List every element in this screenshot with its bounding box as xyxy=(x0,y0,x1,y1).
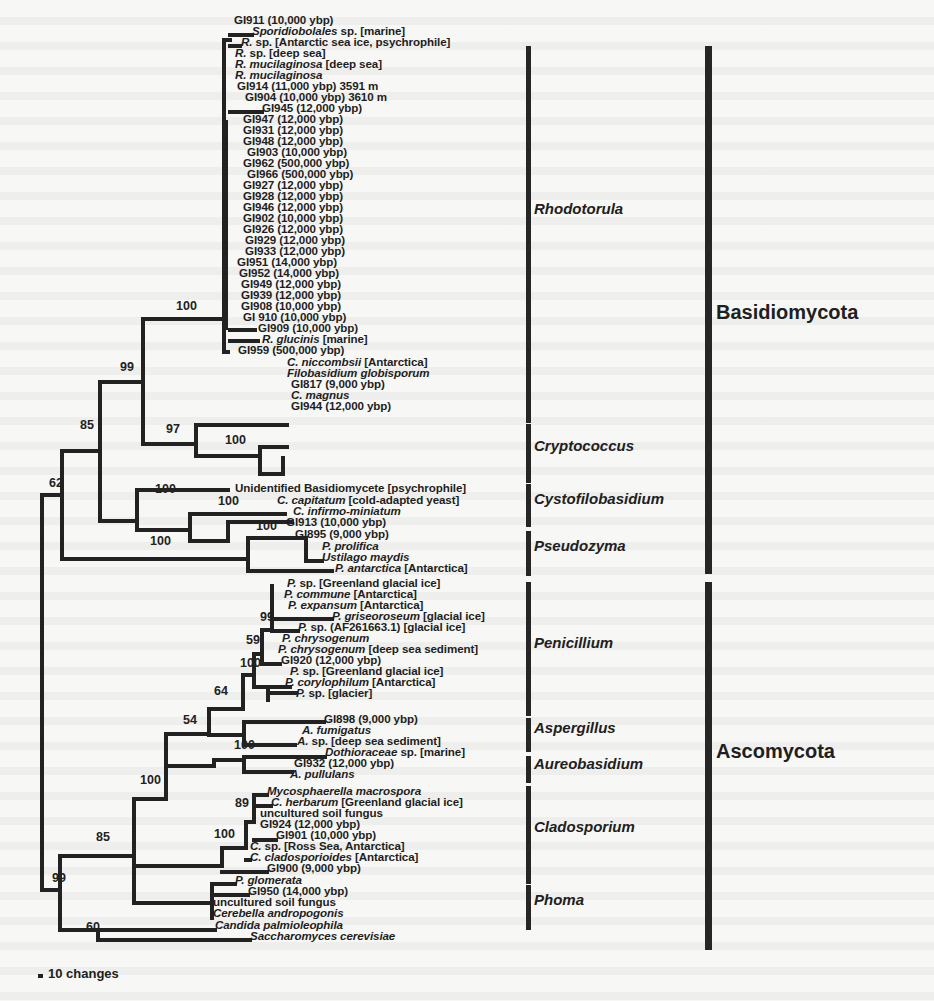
taxon-annotation: [deep sea] xyxy=(322,57,381,70)
bootstrap-value: 100 xyxy=(218,495,239,508)
clade-bracket-bar xyxy=(526,786,531,884)
scale-label: 10 changes xyxy=(48,966,119,981)
clade-bracket-bar xyxy=(526,718,531,752)
clade-bracket-bar xyxy=(526,424,531,483)
taxon-label: P. sp. [glacier] xyxy=(296,687,372,699)
taxon-genus-species: Saccharomyces cerevisiae xyxy=(250,929,395,942)
clade-bracket-bar xyxy=(526,46,531,423)
bootstrap-value: 100 xyxy=(150,535,171,548)
taxon-annotation: GI944 (12,000 ybp) xyxy=(291,399,391,412)
bootstrap-value: 60 xyxy=(86,921,100,934)
scale-bar xyxy=(38,974,43,978)
clade-bracket-bar xyxy=(526,582,531,716)
bootstrap-value: 100 xyxy=(140,774,161,787)
bootstrap-value: 85 xyxy=(80,419,94,432)
taxon-annotation: [Antarctica] xyxy=(352,850,418,863)
taxon-genus-species: P. xyxy=(296,686,305,699)
clade-label: Aureobasidium xyxy=(534,755,643,772)
taxon-label: A. pullulans xyxy=(290,768,355,780)
bootstrap-value: 59 xyxy=(246,634,260,647)
taxon-genus-species: P. antarctica xyxy=(335,561,401,574)
bootstrap-value: 99 xyxy=(52,872,66,885)
clade-label: Cystofilobasidium xyxy=(534,490,664,507)
clade-label: Penicillium xyxy=(534,634,613,651)
taxon-label: Saccharomyces cerevisiae xyxy=(250,930,395,942)
taxon-annotation: [Antarctica] xyxy=(369,675,435,688)
taxon-annotation: sp. [marine] xyxy=(397,745,465,758)
phylum-label: Basidiomycota xyxy=(716,301,858,324)
bootstrap-value: 100 xyxy=(214,828,235,841)
bootstrap-value: 97 xyxy=(166,423,180,436)
taxon-label: P. antarctica [Antarctica] xyxy=(335,562,468,574)
clade-label: Rhodotorula xyxy=(534,200,623,217)
phylum-bracket-bar xyxy=(705,582,712,950)
taxon-genus-species: A. pullulans xyxy=(290,767,355,780)
taxon-annotation: [deep sea sediment] xyxy=(365,642,478,655)
clade-label: Pseudozyma xyxy=(534,537,626,554)
phylogenetic-tree-branches xyxy=(0,0,934,1001)
bootstrap-value: 99 xyxy=(260,611,274,624)
clade-bracket-bar xyxy=(526,484,531,527)
bootstrap-value: 100 xyxy=(234,739,255,752)
bootstrap-value: 100 xyxy=(176,300,197,313)
bootstrap-value: 100 xyxy=(256,520,277,533)
clade-label: Phoma xyxy=(534,891,584,908)
clade-bracket-bar xyxy=(526,885,531,930)
clade-label: Aspergillus xyxy=(534,719,616,736)
bootstrap-value: 64 xyxy=(214,685,228,698)
bootstrap-value: 89 xyxy=(235,797,249,810)
bootstrap-value: 100 xyxy=(240,657,261,670)
taxon-label: GI944 (12,000 ybp) xyxy=(291,400,391,412)
phylum-bracket-bar xyxy=(705,46,712,574)
bootstrap-value: 62 xyxy=(49,477,63,490)
clade-bracket-bar xyxy=(526,756,531,783)
bootstrap-value: 99 xyxy=(120,361,134,374)
taxon-annotation: [Antarctica] xyxy=(401,561,467,574)
clade-bracket-bar xyxy=(526,531,531,576)
taxon-genus-species: A. xyxy=(297,734,308,747)
clade-label: Cladosporium xyxy=(534,818,635,835)
phylum-label: Ascomycota xyxy=(716,740,835,763)
bootstrap-value: 54 xyxy=(183,714,197,727)
bootstrap-value: 100 xyxy=(155,483,176,496)
bootstrap-value: 85 xyxy=(96,831,110,844)
bootstrap-value: 100 xyxy=(225,434,246,447)
clade-label: Cryptococcus xyxy=(534,437,634,454)
taxon-annotation: sp. [glacier] xyxy=(305,686,372,699)
